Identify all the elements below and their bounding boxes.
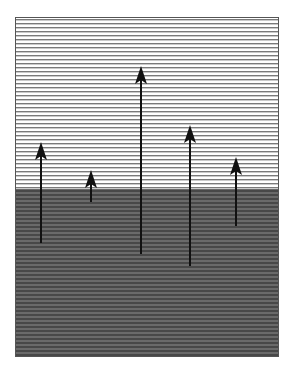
stripe-line (16, 198, 278, 200)
stripe-line (16, 139, 278, 140)
stripe-line (16, 43, 278, 44)
stripe-line (16, 214, 278, 216)
stripe-line (16, 123, 278, 124)
stripe-line (16, 258, 278, 260)
stripe-line (16, 23, 278, 24)
stripe-line (16, 19, 278, 20)
stripe-line (16, 99, 278, 100)
stripe-line (16, 302, 278, 304)
stripe-line (16, 338, 278, 340)
stripe-line (16, 202, 278, 204)
stripe-line (16, 159, 278, 160)
stripe-line (16, 342, 278, 344)
stripe-line (16, 274, 278, 276)
stripe-line (16, 131, 278, 132)
stripe-line (16, 350, 278, 352)
lower-region (16, 189, 278, 356)
stripe-line (16, 135, 278, 136)
stripe-line (16, 35, 278, 36)
stripe-line (16, 51, 278, 52)
stripe-line (16, 238, 278, 240)
stripe-line (16, 127, 278, 128)
stripe-line (16, 27, 278, 28)
stripe-line (16, 47, 278, 48)
stripe-line (16, 246, 278, 248)
stripe-line (16, 326, 278, 328)
stripe-line (16, 87, 278, 88)
stripe-line (16, 119, 278, 120)
stripe-line (16, 190, 278, 192)
stripe-line (16, 206, 278, 208)
stripe-line (16, 290, 278, 292)
stripe-line (16, 334, 278, 336)
stripe-line (16, 183, 278, 184)
stripe-line (16, 83, 278, 84)
stripe-line (16, 330, 278, 332)
stripe-line (16, 55, 278, 56)
stripe-line (16, 298, 278, 300)
stripe-line (16, 67, 278, 68)
stripe-line (16, 250, 278, 252)
stripe-line (16, 282, 278, 284)
stripe-line (16, 179, 278, 180)
stripe-line (16, 294, 278, 296)
stripe-line (16, 314, 278, 316)
arrow-diagram (0, 0, 290, 368)
stripe-line (16, 31, 278, 32)
stripe-line (16, 155, 278, 156)
stripe-line (16, 115, 278, 116)
stripe-line (16, 107, 278, 108)
stripe-line (16, 270, 278, 272)
stripe-line (16, 59, 278, 60)
stripe-line (16, 187, 278, 188)
stripe-line (16, 266, 278, 268)
stripe-line (16, 322, 278, 324)
stripe-line (16, 278, 278, 280)
stripe-line (16, 218, 278, 220)
stripe-line (16, 234, 278, 236)
stripe-line (16, 194, 278, 196)
stripe-line (16, 222, 278, 224)
stripe-line (16, 226, 278, 228)
stripe-line (16, 310, 278, 312)
stripe-line (16, 262, 278, 264)
stripe-line (16, 39, 278, 40)
stripe-line (16, 286, 278, 288)
stripe-line (16, 95, 278, 96)
stripe-line (16, 103, 278, 104)
stripe-line (16, 63, 278, 64)
stripe-line (16, 143, 278, 144)
stripe-line (16, 175, 278, 176)
stripe-line (16, 318, 278, 320)
stripe-line (16, 111, 278, 112)
stripe-line (16, 254, 278, 256)
stripe-line (16, 210, 278, 212)
stripe-line (16, 242, 278, 244)
stripe-line (16, 147, 278, 148)
stripe-line (16, 79, 278, 80)
stripe-line (16, 354, 278, 356)
stripe-line (16, 75, 278, 76)
stripe-line (16, 230, 278, 232)
stripe-line (16, 71, 278, 72)
upper-region (16, 18, 278, 189)
stripe-line (16, 346, 278, 348)
stripe-line (16, 151, 278, 152)
stripe-line (16, 306, 278, 308)
stripe-line (16, 163, 278, 164)
stripe-line (16, 91, 278, 92)
